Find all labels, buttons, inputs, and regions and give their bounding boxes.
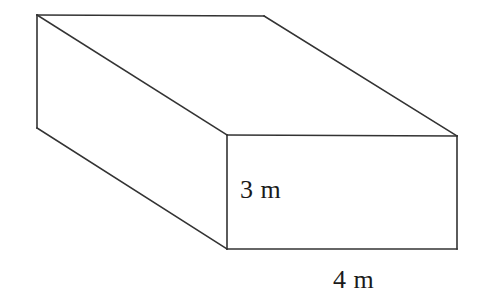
front-top-horizontal-edge — [227, 135, 457, 136]
height-dimension-label: 3 m — [240, 175, 281, 204]
rectangular-prism-diagram: 3 m 4 m — [0, 0, 484, 305]
width-dimension-label: 4 m — [333, 265, 374, 294]
back-top-horizontal-edge — [37, 15, 264, 16]
